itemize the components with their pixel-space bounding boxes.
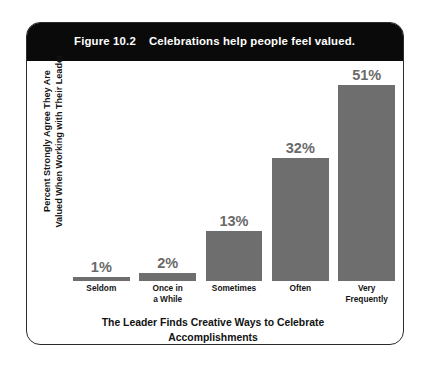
y-axis-label: Percent Strongly Agree They Are Valued W…	[37, 51, 69, 231]
x-axis-tick-label-line: Once in	[139, 283, 196, 294]
x-axis-tick-label: Once ina While	[139, 283, 196, 305]
x-axis-label-line-2: Accomplishments	[63, 331, 363, 345]
bar-series: 1%2%13%32%51%	[73, 62, 395, 281]
x-axis-label: The Leader Finds Creative Ways to Celebr…	[63, 316, 363, 345]
bar	[73, 277, 130, 281]
x-axis-tick-label-line: Very	[338, 283, 395, 294]
x-axis-tick-label-line: Sometimes	[206, 283, 263, 294]
bar	[206, 231, 263, 281]
bar-group: 32%	[272, 62, 329, 281]
bar-group: 13%	[206, 62, 263, 281]
bar	[272, 158, 329, 281]
figure-title: Figure 10.2 Celebrations help people fee…	[74, 35, 355, 47]
x-axis-tick-label-line: a While	[139, 294, 196, 305]
bar-value-label: 32%	[286, 141, 315, 156]
x-axis-tick-label: VeryFrequently	[338, 283, 395, 305]
figure-frame: Figure 10.2 Celebrations help people fee…	[26, 22, 404, 345]
bar-value-label: 1%	[91, 260, 112, 275]
plot-region: Percent Strongly Agree They Are Valued W…	[27, 62, 402, 343]
x-axis-tick-labels: SeldomOnce ina WhileSometimesOftenVeryFr…	[73, 283, 395, 305]
x-axis-tick-label: Seldom	[73, 283, 130, 305]
x-axis-tick-label-line: Seldom	[73, 283, 130, 294]
x-axis-tick-label: Sometimes	[206, 283, 263, 305]
bar-value-label: 2%	[157, 256, 178, 271]
bar	[139, 273, 196, 281]
figure-caption: Celebrations help people feel valued.	[149, 35, 355, 47]
x-axis-tick-label: Often	[272, 283, 329, 305]
bar-value-label: 51%	[352, 68, 381, 83]
y-axis-label-line-2: Valued When Working with Their Leader	[53, 54, 65, 227]
bar-group: 51%	[338, 62, 395, 281]
chart-plot-area: 1%2%13%32%51%	[73, 62, 395, 281]
x-axis-label-line-1: The Leader Finds Creative Ways to Celebr…	[63, 316, 363, 331]
bar-value-label: 13%	[219, 214, 248, 229]
bar-group: 1%	[73, 62, 130, 281]
x-axis-tick-label-line: Often	[272, 283, 329, 294]
bar-group: 2%	[139, 62, 196, 281]
figure-number: Figure 10.2	[74, 35, 136, 47]
x-axis-tick-label-line: Frequently	[338, 294, 395, 305]
y-axis-label-line-1: Percent Strongly Agree They Are	[41, 70, 53, 212]
bar	[338, 85, 395, 281]
figure-title-bar: Figure 10.2 Celebrations help people fee…	[26, 22, 404, 61]
